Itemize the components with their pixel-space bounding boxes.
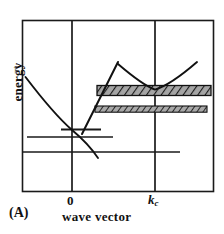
figure-background (0, 0, 224, 234)
band-structure-figure (0, 0, 224, 234)
y-axis-label: energy (10, 47, 26, 117)
kc-subscript: c (155, 198, 159, 208)
upper-hatched-band (97, 86, 211, 96)
x-axis-label: wave vector (62, 209, 131, 225)
lower-hatched-band (95, 106, 207, 112)
x-tick-kc: kc (148, 192, 159, 208)
x-tick-zero: 0 (67, 193, 74, 209)
panel-label: (A) (9, 205, 28, 221)
